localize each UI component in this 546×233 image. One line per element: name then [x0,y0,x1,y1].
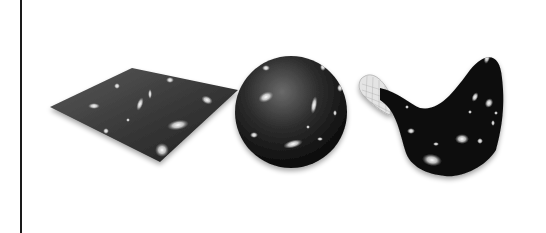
saddle-open-geometry [359,51,503,176]
flat-plane-geometry [50,68,238,162]
universe-geometries-figure [0,0,546,233]
spherical-closed-geometry [235,56,347,168]
